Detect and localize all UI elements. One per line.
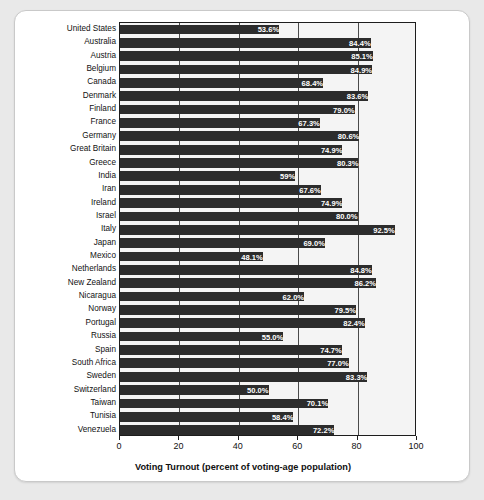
category-axis: United StatesAustraliaAustriaBelgiumCana… [15, 22, 119, 436]
bar-row: 80.3% [120, 157, 415, 170]
page-root: United StatesAustraliaAustriaBelgiumCana… [0, 0, 484, 500]
category-label: Tunisia [90, 409, 119, 422]
category-label: Denmark [83, 89, 119, 102]
category-label: United States [67, 22, 119, 35]
bar-value-label: 85.1% [120, 51, 375, 62]
bar-value-label: 92.5% [120, 225, 397, 236]
bar-value-label: 79.5% [120, 305, 359, 316]
bar-row: 74.7% [120, 344, 415, 357]
category-label: Austria [91, 49, 119, 62]
bar-row: 48.1% [120, 250, 415, 263]
plot-area: 53.6%84.4%85.1%84.9%68.4%83.6%79.0%67.3%… [119, 22, 416, 436]
category-label: Iran [102, 182, 119, 195]
bar-row: 50.0% [120, 384, 415, 397]
bar-row: 92.5% [120, 223, 415, 236]
category-label: Taiwan [91, 396, 120, 409]
category-label: Australia [84, 35, 119, 48]
bar-row: 67.3% [120, 116, 415, 129]
bar-value-label: 80.0% [120, 211, 360, 222]
bar-row: 68.4% [120, 76, 415, 89]
x-axis-tick [416, 436, 417, 440]
bar-value-label: 83.3% [120, 372, 370, 383]
bar-value-label: 84.9% [120, 65, 375, 76]
bar-row: 59% [120, 170, 415, 183]
category-label: Venezuela [78, 423, 119, 436]
bar-row: 72.2% [120, 424, 415, 437]
bar-value-label: 69.0% [120, 238, 327, 249]
bar-row: 82.4% [120, 317, 415, 330]
category-label: Sweden [86, 369, 119, 382]
bar-row: 74.9% [120, 197, 415, 210]
bar-row: 83.3% [120, 370, 415, 383]
bar-value-label: 67.6% [120, 185, 323, 196]
bar-row: 67.6% [120, 183, 415, 196]
category-label: Portugal [86, 316, 120, 329]
bar-value-label: 84.4% [120, 38, 373, 49]
x-axis-title: Voting Turnout (percent of voting-age po… [15, 462, 471, 472]
bar-row: 58.4% [120, 410, 415, 423]
category-label: Norway [88, 302, 119, 315]
bar-value-label: 79.0% [120, 105, 357, 116]
bar-value-label: 74.9% [120, 198, 345, 209]
x-axis-tick-label: 40 [233, 441, 243, 451]
category-label: Spain [95, 343, 119, 356]
bar-row: 80.6% [120, 130, 415, 143]
x-axis-tick-label: 60 [292, 441, 302, 451]
bar-value-label: 82.4% [120, 318, 367, 329]
category-label: Italy [101, 222, 119, 235]
bar-row: 80.0% [120, 210, 415, 223]
category-label: Russia [91, 329, 119, 342]
x-axis: 020406080100 [119, 436, 416, 458]
bar-value-label: 68.4% [120, 78, 326, 89]
x-axis-tick [178, 436, 179, 440]
bar-row: 62.0% [120, 290, 415, 303]
bar-row: 84.4% [120, 36, 415, 49]
bar-row: 83.6% [120, 90, 415, 103]
bar-row: 79.0% [120, 103, 415, 116]
bar-row: 86.2% [120, 277, 415, 290]
bar-value-label: 48.1% [120, 252, 265, 263]
category-label: Mexico [90, 249, 119, 262]
category-label: Netherlands [72, 262, 119, 275]
bar-value-label: 80.3% [120, 158, 361, 169]
bar-value-label: 77.0% [120, 358, 351, 369]
category-label: South Africa [72, 356, 119, 369]
chart-card: United StatesAustraliaAustriaBelgiumCana… [14, 10, 470, 482]
x-axis-tick [238, 436, 239, 440]
bar-row: 74.9% [120, 143, 415, 156]
category-label: Belgium [86, 62, 119, 75]
bar-value-label: 74.9% [120, 145, 345, 156]
bar-row: 77.0% [120, 357, 415, 370]
bar-value-label: 83.6% [120, 91, 371, 102]
category-label: Ireland [91, 196, 119, 209]
bar-row: 84.8% [120, 263, 415, 276]
x-axis-tick-label: 80 [352, 441, 362, 451]
category-label: Switzerland [74, 383, 119, 396]
bar-value-label: 58.4% [120, 412, 296, 423]
x-axis-tick [119, 436, 120, 440]
category-label: India [98, 169, 119, 182]
category-label: Israel [96, 209, 119, 222]
bar-value-label: 62.0% [120, 292, 307, 303]
category-label: Greece [89, 156, 119, 169]
bar-chart-figure: United StatesAustraliaAustriaBelgiumCana… [15, 11, 471, 483]
bar-value-label: 53.6% [120, 24, 282, 35]
bar-row: 69.0% [120, 237, 415, 250]
bar-row: 70.1% [120, 397, 415, 410]
bar-row: 79.5% [120, 303, 415, 316]
x-axis-tick-label: 20 [173, 441, 183, 451]
bar-row: 55.0% [120, 330, 415, 343]
bar-row: 85.1% [120, 50, 415, 63]
x-axis-tick-label: 0 [116, 441, 121, 451]
bar-value-label: 84.8% [120, 265, 374, 276]
x-axis-tick [297, 436, 298, 440]
bar-value-label: 70.1% [120, 398, 331, 409]
bar-value-label: 50.0% [120, 385, 271, 396]
bar-value-label: 67.3% [120, 118, 322, 129]
bar-value-label: 80.6% [120, 131, 362, 142]
category-label: Nicaragua [79, 289, 119, 302]
bar-value-label: 59% [120, 171, 298, 182]
bar-value-label: 74.7% [120, 345, 344, 356]
bar-value-label: 55.0% [120, 332, 286, 343]
bar-value-label: 72.2% [120, 425, 337, 436]
